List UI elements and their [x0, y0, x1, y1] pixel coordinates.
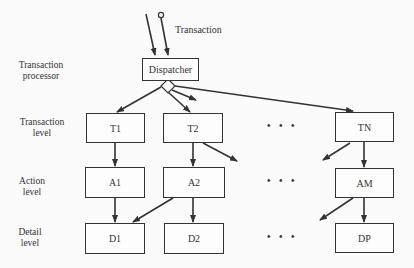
transaction-node-t1: T1	[86, 113, 145, 143]
level-label-detail: Detail level	[2, 227, 58, 249]
ellipsis-action-row: • • •	[267, 175, 298, 186]
transaction-input-label: Transaction	[175, 24, 222, 35]
action-node-a1: A1	[85, 167, 145, 198]
detail-node-d1: D1	[85, 223, 145, 254]
action-node-am: AM	[335, 168, 394, 198]
level-label-action: Action level	[2, 176, 62, 198]
ellipsis-transaction-row: • • •	[267, 120, 298, 131]
level-label-line1: Action	[2, 176, 62, 187]
transaction-node-tn: TN	[335, 112, 394, 142]
level-label-processor: Transaction processor	[2, 60, 80, 82]
dispatcher-node: Dispatcher	[142, 58, 199, 81]
transaction-processing-diagram: Transaction Transaction processor Transa…	[0, 0, 414, 268]
level-label-line1: Transaction	[2, 117, 82, 128]
level-label-line2: processor	[2, 71, 80, 82]
transaction-node-t2: T2	[163, 113, 223, 143]
detail-node-d2: D2	[164, 223, 224, 254]
ellipsis-detail-row: • • •	[267, 231, 298, 242]
level-label-line2: level	[2, 128, 82, 139]
level-label-line1: Detail	[2, 227, 58, 238]
level-label-line2: level	[2, 238, 58, 249]
action-node-a2: A2	[163, 167, 225, 198]
level-label-transaction: Transaction level	[2, 117, 82, 139]
level-label-line1: Transaction	[2, 60, 80, 71]
detail-node-dp: DP	[335, 223, 394, 253]
level-label-line2: level	[2, 187, 62, 198]
